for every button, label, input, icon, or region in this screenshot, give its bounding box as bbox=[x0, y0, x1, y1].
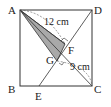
label-d: D bbox=[94, 4, 102, 16]
label-g: G bbox=[46, 54, 54, 66]
geometry-diagram: A B C D E F G 12 cm 9 cm bbox=[0, 0, 111, 107]
label-b: B bbox=[8, 83, 15, 95]
measurement-af: 12 cm bbox=[44, 16, 69, 27]
right-angle-marker-g bbox=[59, 62, 64, 65]
label-a: A bbox=[8, 4, 16, 16]
label-c: C bbox=[94, 83, 101, 95]
label-e: E bbox=[35, 90, 42, 102]
label-f: F bbox=[68, 44, 74, 56]
measurement-gc: 9 cm bbox=[70, 61, 90, 72]
